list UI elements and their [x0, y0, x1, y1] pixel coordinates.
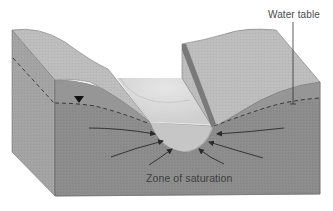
groundwater-diagram: Water table Zone of saturation	[0, 0, 333, 211]
zone-of-saturation-label: Zone of saturation	[146, 172, 232, 184]
water-table-label: Water table	[268, 9, 320, 20]
